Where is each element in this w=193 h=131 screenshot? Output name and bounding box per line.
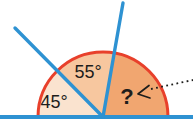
angle-diagram-svg: 45° 55° ? [0, 0, 193, 131]
label-unknown-angle: ? [120, 84, 133, 109]
angle-diagram: 45° 55° ? [0, 0, 193, 131]
label-45-degrees: 45° [40, 92, 67, 112]
label-55-degrees: 55° [74, 62, 101, 82]
